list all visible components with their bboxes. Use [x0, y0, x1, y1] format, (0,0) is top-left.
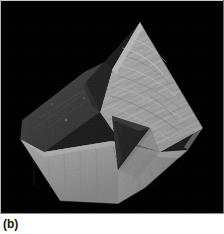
- photo-border-left: [0, 0, 1, 214]
- photo-border-top: [0, 0, 224, 1]
- specimen-photograph: [0, 0, 224, 214]
- photo-border-right: [223, 0, 224, 214]
- photo-border-bottom: [0, 213, 224, 214]
- figure-root: (b): [0, 0, 224, 234]
- figure-caption: (b): [3, 217, 18, 232]
- crystal-specimen-illustration: [0, 0, 224, 214]
- crystal-body: [0, 0, 224, 214]
